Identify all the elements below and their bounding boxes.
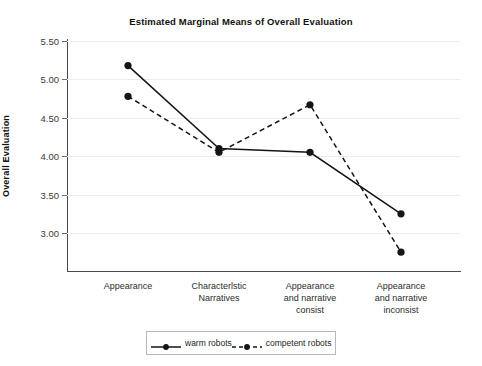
y-axis-tick-label: 5.50 bbox=[41, 36, 60, 47]
y-axis-tick bbox=[62, 41, 67, 42]
y-axis-tick-label: 4.50 bbox=[41, 112, 60, 123]
y-axis-tick-label: 5.00 bbox=[41, 74, 60, 85]
y-axis-tick bbox=[62, 79, 67, 80]
legend-swatch bbox=[151, 338, 181, 348]
y-axis-tick-label: 3.50 bbox=[41, 189, 60, 200]
plot-area: 5.505.004.504.003.503.00 bbox=[67, 41, 460, 271]
x-axis-category-label: Appearanceand narrativeconsist bbox=[258, 280, 362, 316]
gridline bbox=[67, 233, 460, 234]
legend-entry-competent-robots[interactable]: competent robots bbox=[232, 338, 332, 348]
x-axis-category-label: Appearanceand narrativeinconsist bbox=[349, 280, 453, 316]
y-axis-tick bbox=[62, 156, 67, 157]
y-axis-tick-label: 3.00 bbox=[41, 228, 60, 239]
gridline bbox=[67, 118, 460, 119]
y-axis-tick-label: 4.00 bbox=[41, 151, 60, 162]
y-axis-tick bbox=[62, 195, 67, 196]
gridline bbox=[67, 195, 460, 196]
chart-legend: warm robotscompetent robots bbox=[146, 331, 336, 355]
x-axis-line bbox=[67, 271, 461, 272]
gridline bbox=[67, 156, 460, 157]
x-axis-category-label: Appearance bbox=[76, 280, 180, 292]
chart-figure: Estimated Marginal Means of Overall Eval… bbox=[0, 0, 482, 366]
y-axis-title: Overall Evaluation bbox=[1, 115, 11, 197]
legend-label: competent robots bbox=[266, 338, 332, 348]
legend-entry-warm-robots[interactable]: warm robots bbox=[151, 338, 232, 348]
y-axis-tick bbox=[62, 233, 67, 234]
legend-swatch bbox=[232, 338, 262, 348]
legend-label: warm robots bbox=[185, 338, 232, 348]
y-axis-tick bbox=[62, 118, 67, 119]
chart-title: Estimated Marginal Means of Overall Eval… bbox=[0, 16, 482, 27]
x-axis-category-label: CharacterlsticNarratives bbox=[167, 280, 271, 304]
gridline bbox=[67, 41, 460, 42]
gridline bbox=[67, 79, 460, 80]
